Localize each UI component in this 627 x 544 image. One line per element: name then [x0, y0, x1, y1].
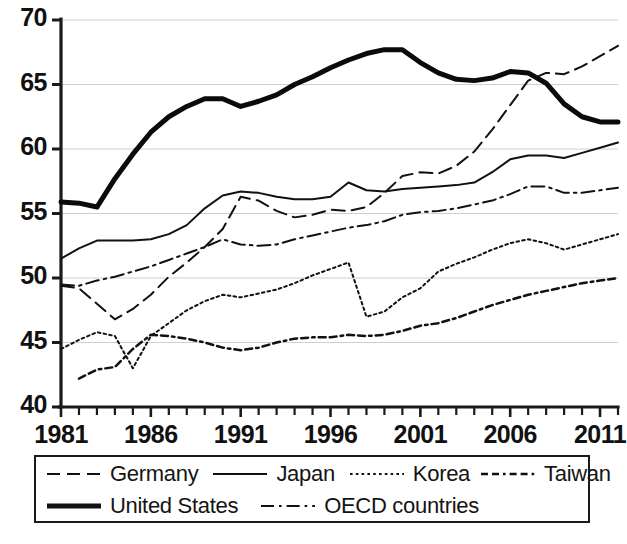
x-axis-label-1986: 1986 [111, 420, 191, 449]
legend-row-1: GermanyJapanKoreaTaiwan [36, 458, 588, 490]
x-axis-label-1996: 1996 [291, 420, 371, 449]
y-axis-label-50: 50 [0, 261, 47, 290]
legend-item-germany[interactable]: Germany [46, 461, 198, 487]
y-axis-label-70: 70 [0, 3, 47, 32]
legend-line-swatch [480, 467, 536, 481]
x-axis-label-1991: 1991 [201, 420, 281, 449]
chart-legend: GermanyJapanKoreaTaiwan United StatesOEC… [34, 455, 590, 523]
x-axis-label-2001: 2001 [380, 420, 460, 449]
legend-line-swatch [349, 467, 405, 481]
x-axis-label-2011: 2011 [560, 420, 627, 449]
series-line-taiwan [79, 278, 618, 379]
series-line-united-states [61, 50, 618, 207]
legend-item-oecd-countries[interactable]: OECD countries [260, 493, 479, 519]
series-line-korea [61, 234, 618, 368]
legend-item-taiwan[interactable]: Taiwan [480, 461, 611, 487]
legend-item-label: OECD countries [324, 493, 479, 519]
legend-line-swatch [212, 467, 268, 481]
y-axis-label-40: 40 [0, 390, 47, 419]
legend-item-label: Japan [276, 461, 334, 487]
legend-line-swatch [260, 499, 316, 513]
legend-item-united-states[interactable]: United States [46, 493, 238, 519]
y-axis-label-45: 45 [0, 326, 47, 355]
legend-line-swatch [46, 467, 102, 481]
legend-item-label: United States [110, 493, 238, 519]
x-axis-label-1981: 1981 [21, 420, 101, 449]
y-axis-label-55: 55 [0, 197, 47, 226]
chart-container: 4045505560657019811986199119962001200620… [0, 0, 627, 544]
y-axis-label-60: 60 [0, 132, 47, 161]
legend-item-japan[interactable]: Japan [212, 461, 334, 487]
legend-item-korea[interactable]: Korea [349, 461, 470, 487]
x-axis-label-2006: 2006 [470, 420, 550, 449]
legend-item-label: Taiwan [544, 461, 611, 487]
legend-item-label: Germany [110, 461, 198, 487]
series-line-oecd-countries [61, 186, 618, 285]
legend-item-label: Korea [413, 461, 470, 487]
y-axis-label-65: 65 [0, 68, 47, 97]
legend-row-2: United StatesOECD countries [36, 490, 588, 522]
legend-line-swatch [46, 499, 102, 513]
